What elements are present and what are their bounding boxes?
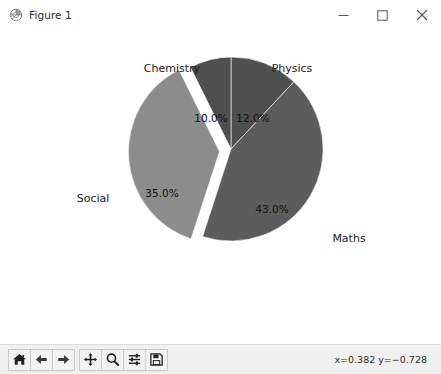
navigation-toolbar: x=0.382 y=−0.728 — [0, 344, 441, 374]
toolbar-tools-group — [79, 349, 167, 371]
title-bar: Figure 1 — [0, 0, 441, 30]
pie-pct-social: 35.0% — [145, 187, 178, 199]
pie-pct-maths: 43.0% — [255, 203, 288, 215]
figure-canvas[interactable]: 12.0% 10.0% 35.0% 43.0% Physics Chemistr… — [0, 30, 441, 344]
maximize-button[interactable] — [363, 0, 402, 30]
pie-label-chemistry: Chemistry — [144, 62, 201, 75]
minimize-button[interactable] — [324, 0, 363, 30]
sliders-icon[interactable] — [123, 349, 146, 371]
toolbar-nav-group — [8, 349, 74, 371]
pie-pct-chemistry: 10.0% — [194, 112, 227, 124]
move-icon[interactable] — [79, 349, 102, 371]
arrow-right-icon[interactable] — [52, 349, 75, 371]
matplotlib-logo-icon — [9, 8, 23, 22]
pie-chart[interactable]: 12.0% 10.0% 35.0% 43.0% Physics Chemistr… — [0, 30, 441, 326]
pie-label-social: Social — [77, 192, 110, 205]
window-controls — [324, 0, 441, 30]
home-icon[interactable] — [8, 349, 31, 371]
pie-pct-physics: 12.0% — [236, 112, 269, 124]
close-button[interactable] — [402, 0, 441, 30]
title-bar-left: Figure 1 — [9, 8, 72, 22]
pie-label-physics: Physics — [272, 62, 313, 75]
magnifier-icon[interactable] — [101, 349, 124, 371]
window-title: Figure 1 — [29, 9, 72, 21]
arrow-left-icon[interactable] — [30, 349, 53, 371]
figure-window: Figure 1 — [0, 0, 441, 374]
coordinate-readout: x=0.382 y=−0.728 — [334, 354, 435, 365]
floppy-disk-save-icon[interactable] — [145, 349, 168, 371]
pie-label-maths: Maths — [332, 232, 366, 245]
